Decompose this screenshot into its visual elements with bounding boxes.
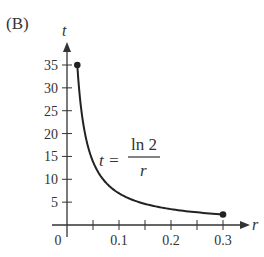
y-tick-label: 25 [44, 104, 58, 119]
equation-numerator: ln 2 [131, 135, 157, 154]
y-tick-label: 15 [44, 149, 58, 164]
x-tick-label: 0 [55, 233, 62, 248]
y-tick-label: 35 [44, 58, 58, 73]
y-tick-label: 5 [51, 195, 58, 210]
x-axis-arrow-icon [240, 221, 250, 229]
y-tick-label: 30 [44, 81, 58, 96]
equation-denominator: r [140, 161, 147, 180]
x-axis-label: r [252, 216, 259, 233]
x-tick-label: 0.1 [110, 233, 128, 248]
x-tick-label: 0.3 [214, 233, 232, 248]
y-axis-arrow-icon [63, 42, 71, 52]
endpoint-dot [220, 211, 227, 218]
chart-svg: (B) tr 510152025303500.10.20.3 t = ln 2 … [0, 0, 264, 257]
y-axis-label: t [62, 22, 67, 39]
figure: (B) tr 510152025303500.10.20.3 t = ln 2 … [0, 0, 264, 257]
equation-lhs: t = [99, 151, 119, 170]
equation-label: t = ln 2 r [99, 135, 160, 180]
y-tick-label: 10 [44, 172, 58, 187]
x-tick-label: 0.2 [162, 233, 180, 248]
axes: tr [52, 22, 259, 237]
y-tick-label: 20 [44, 127, 58, 142]
endpoint-dot [74, 62, 81, 69]
panel-label: (B) [6, 14, 29, 33]
